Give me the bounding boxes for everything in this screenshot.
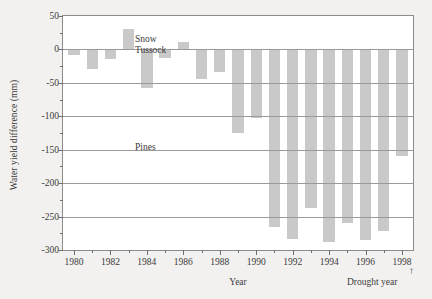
annotation-pines: Pines xyxy=(135,142,156,153)
bar-1990 xyxy=(251,49,262,118)
bar-1998 xyxy=(396,49,407,156)
y-tick-label: -300 xyxy=(19,245,59,255)
x-tick-mark xyxy=(183,250,184,255)
y-tick-mark-minor xyxy=(60,33,63,34)
x-tick-mark xyxy=(402,250,403,255)
x-tick-label: 1982 xyxy=(101,257,120,267)
x-tick-mark-minor xyxy=(311,250,312,253)
x-tick-mark-minor xyxy=(202,250,203,253)
bar-1991 xyxy=(269,49,280,226)
y-tick-mark xyxy=(58,217,63,218)
y-tick-mark-minor xyxy=(60,66,63,67)
y-tick-label: -50 xyxy=(19,78,59,88)
water-yield-difference-chart: Water yield difference (mm) 500-50-100-1… xyxy=(0,0,432,299)
bar-1994 xyxy=(323,49,334,242)
x-tick-label: 1986 xyxy=(174,257,193,267)
gridline xyxy=(63,183,413,184)
bar-1981 xyxy=(87,49,98,69)
y-tick-mark-minor xyxy=(60,200,63,201)
x-tick-mark xyxy=(74,250,75,255)
x-tick-label: 1994 xyxy=(320,257,339,267)
zero-line xyxy=(63,49,413,50)
x-tick-mark-minor xyxy=(165,250,166,253)
y-tick-mark xyxy=(58,83,63,84)
bar-1992 xyxy=(287,49,298,238)
y-tick-mark xyxy=(58,150,63,151)
x-tick-mark-minor xyxy=(92,250,93,253)
y-tick-mark xyxy=(58,49,63,50)
gridline xyxy=(63,83,413,84)
bar-1989 xyxy=(232,49,243,133)
y-tick-mark-minor xyxy=(60,133,63,134)
y-tick-label: -100 xyxy=(19,111,59,121)
x-tick-mark xyxy=(110,250,111,255)
y-tick-mark-minor xyxy=(60,166,63,167)
y-tick-mark xyxy=(58,250,63,251)
y-tick-mark xyxy=(58,183,63,184)
gridline xyxy=(63,116,413,117)
x-tick-mark xyxy=(147,250,148,255)
y-axis-title: Water yield difference (mm) xyxy=(9,25,19,245)
x-tick-label: 1988 xyxy=(210,257,229,267)
x-tick-mark xyxy=(256,250,257,255)
bar-1982 xyxy=(105,49,116,58)
y-tick-mark-minor xyxy=(60,100,63,101)
x-tick-mark-minor xyxy=(129,250,130,253)
y-tick-label: -150 xyxy=(19,145,59,155)
y-tick-label: -250 xyxy=(19,212,59,222)
x-tick-label: 1980 xyxy=(64,257,83,267)
x-tick-mark xyxy=(293,250,294,255)
x-tick-mark-minor xyxy=(238,250,239,253)
x-tick-mark xyxy=(366,250,367,255)
x-tick-label: 1990 xyxy=(247,257,266,267)
annotation-snow-line1: Snow xyxy=(135,34,166,45)
bar-1988 xyxy=(214,49,225,72)
y-tick-mark xyxy=(58,116,63,117)
y-tick-label: -200 xyxy=(19,178,59,188)
bar-series xyxy=(63,16,413,250)
x-tick-label: 1992 xyxy=(283,257,302,267)
bar-1983 xyxy=(123,29,134,49)
y-tick-label: 50 xyxy=(19,11,59,21)
bar-1987 xyxy=(196,49,207,78)
x-tick-label: 1996 xyxy=(356,257,375,267)
plot-area: 500-50-100-150-200-250-300 1980198219841… xyxy=(62,15,414,251)
y-tick-label: 0 xyxy=(19,44,59,54)
x-tick-mark-minor xyxy=(347,250,348,253)
x-tick-mark-minor xyxy=(384,250,385,253)
y-tick-mark xyxy=(58,16,63,17)
x-tick-mark xyxy=(329,250,330,255)
bar-1997 xyxy=(378,49,389,230)
annotation-snow-line2: Tussock xyxy=(135,45,166,56)
gridline xyxy=(63,217,413,218)
y-tick-mark-minor xyxy=(60,233,63,234)
bar-1995 xyxy=(342,49,353,222)
annotation-drought-year: Drought year xyxy=(347,277,397,287)
bar-1986 xyxy=(178,42,189,49)
x-tick-mark-minor xyxy=(274,250,275,253)
x-tick-label: 1984 xyxy=(137,257,156,267)
bar-1996 xyxy=(360,49,371,240)
x-tick-mark xyxy=(220,250,221,255)
annotation-snow-tussock: Snow Tussock xyxy=(135,34,166,56)
gridline xyxy=(63,150,413,151)
